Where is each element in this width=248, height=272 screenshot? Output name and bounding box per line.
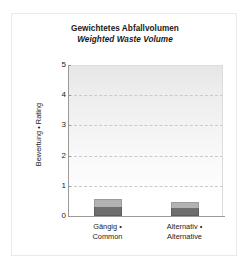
chart-card: Gewichtetes Abfallvolumen Weighted Waste…: [11, 13, 237, 256]
y-tick-label: 5: [46, 61, 66, 69]
y-tick-label: 3: [46, 121, 66, 129]
gridline: [69, 156, 223, 157]
y-tick-label: 0: [46, 212, 66, 220]
y-tick-mark: [68, 95, 71, 96]
gridline: [69, 125, 223, 126]
y-tick-label: 4: [46, 91, 66, 99]
category-label: Alternativ •Alternative: [140, 222, 230, 241]
category-label-line: Alternativ •: [140, 222, 230, 232]
bar-group[interactable]: [171, 202, 199, 216]
y-tick-mark: [68, 216, 71, 217]
y-tick-mark: [68, 156, 71, 157]
gridline: [69, 186, 223, 187]
bar-segment-lower[interactable]: [94, 207, 122, 216]
x-axis-line: [68, 216, 225, 217]
y-axis-ticks: 012345: [40, 14, 66, 257]
gridline: [69, 95, 223, 96]
plot-area: [69, 65, 223, 216]
y-axis-line: [68, 65, 69, 217]
bar-segment-upper[interactable]: [94, 199, 122, 207]
gridline: [69, 65, 223, 66]
y-tick-label: 2: [46, 152, 66, 160]
bar-segment-lower[interactable]: [171, 208, 199, 216]
y-tick-mark: [68, 186, 71, 187]
y-tick-label: 1: [46, 182, 66, 190]
y-tick-mark: [68, 65, 71, 66]
y-tick-mark: [68, 125, 71, 126]
bar-group[interactable]: [94, 199, 122, 216]
category-label-line: Alternative: [140, 232, 230, 242]
